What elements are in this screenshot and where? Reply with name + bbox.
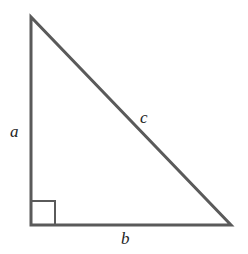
side-c-label: c: [140, 109, 148, 126]
right-angle-marker: [31, 201, 55, 225]
triangle-shape: [31, 17, 231, 225]
triangle-svg: [0, 0, 248, 254]
side-a-label: a: [10, 123, 19, 140]
side-b-label: b: [121, 230, 130, 247]
triangle-diagram: a b c: [0, 0, 248, 254]
